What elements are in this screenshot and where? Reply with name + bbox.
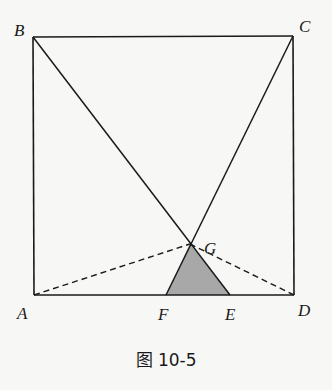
label-c: C bbox=[299, 17, 311, 36]
label-f: F bbox=[157, 305, 169, 324]
figure-caption: 图 10-5 bbox=[136, 350, 197, 370]
label-e: E bbox=[224, 305, 236, 324]
label-d: D bbox=[297, 301, 311, 320]
segment-ab bbox=[33, 37, 34, 295]
segment-be bbox=[33, 37, 230, 295]
label-b: B bbox=[14, 21, 25, 40]
segment-cd bbox=[293, 36, 294, 295]
segment-bc bbox=[33, 36, 293, 37]
segment-cf bbox=[166, 36, 293, 295]
label-g: G bbox=[204, 239, 216, 258]
geometry-figure: B C A D F E G 图 10-5 bbox=[0, 0, 332, 390]
segment-ag-dashed bbox=[34, 244, 190, 295]
label-a: A bbox=[16, 304, 28, 323]
shaded-triangle-fge bbox=[166, 244, 230, 295]
